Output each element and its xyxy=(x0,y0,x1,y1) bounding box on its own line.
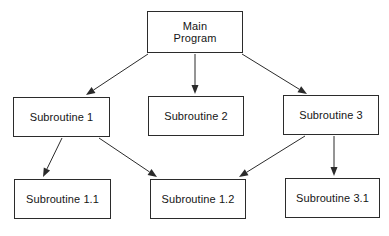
node-subroutine-1-2-label: Subroutine 1.2 xyxy=(162,193,235,205)
node-subroutine-1-2[interactable]: Subroutine 1.2 xyxy=(150,179,246,219)
node-subroutine-3-1-label: Subroutine 3.1 xyxy=(296,192,369,204)
node-subroutine-1[interactable]: Subroutine 1 xyxy=(13,97,110,137)
node-subroutine-3-label: Subroutine 3 xyxy=(299,109,363,121)
edge-main-to-sub1-arrowhead-icon xyxy=(86,87,95,95)
edge-main-to-sub2-arrowhead-icon xyxy=(192,85,199,94)
edge-sub1-to-sub11-arrowhead-icon xyxy=(43,167,50,177)
node-subroutine-3-1[interactable]: Subroutine 3.1 xyxy=(285,178,380,218)
edge-main-to-sub3-arrowhead-icon xyxy=(298,86,307,94)
edge-sub3-to-sub12-line xyxy=(247,136,305,172)
edge-main-to-sub3 xyxy=(242,54,307,94)
edge-main-to-sub1-line xyxy=(94,54,148,90)
edge-sub1-to-sub12 xyxy=(99,138,157,177)
node-subroutine-1-1[interactable]: Subroutine 1.1 xyxy=(14,179,111,219)
edge-sub1-to-sub12-line xyxy=(99,138,150,172)
structure-chart-diagram: Main Program Subroutine 1 Subroutine 2 S… xyxy=(0,0,389,236)
node-main-program[interactable]: Main Program xyxy=(147,11,243,53)
edge-sub3-to-sub12-arrowhead-icon xyxy=(239,169,248,177)
node-subroutine-2[interactable]: Subroutine 2 xyxy=(148,96,244,136)
edge-sub1-to-sub11-line xyxy=(47,138,62,169)
edge-sub3-to-sub12 xyxy=(239,136,305,177)
edge-main-to-sub1 xyxy=(86,54,148,95)
edge-main-to-sub2 xyxy=(192,54,199,94)
edge-sub1-to-sub12-arrowhead-icon xyxy=(148,169,157,177)
edge-sub3-to-sub31-arrowhead-icon xyxy=(331,167,338,176)
node-subroutine-3[interactable]: Subroutine 3 xyxy=(283,95,379,135)
node-subroutine-1-label: Subroutine 1 xyxy=(30,111,94,123)
edge-sub1-to-sub11 xyxy=(43,138,62,177)
node-main-program-label: Main Program xyxy=(174,20,217,44)
node-subroutine-2-label: Subroutine 2 xyxy=(164,110,228,122)
edge-sub3-to-sub31 xyxy=(331,136,338,176)
node-subroutine-1-1-label: Subroutine 1.1 xyxy=(26,193,99,205)
edge-main-to-sub3-line xyxy=(242,54,299,89)
